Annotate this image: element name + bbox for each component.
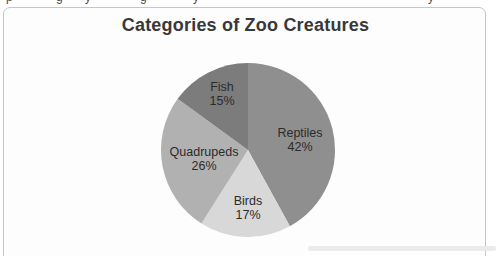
slice-percent: 15% [209,94,234,108]
slice-label-quadrupeds: Quadrupeds 26% [170,145,239,173]
clipped-text-fragment: p [6,0,13,4]
slice-name: Birds [234,194,262,208]
scan-artifact-streak [308,246,496,251]
slice-percent: 42% [277,140,322,154]
slice-name: Reptiles [277,126,322,140]
slice-label-reptiles: Reptiles 42% [277,126,322,154]
slice-label-birds: Birds 17% [234,194,262,222]
clipped-text-fragment: g [56,0,63,4]
clipped-text-fragment: y [85,0,91,4]
slice-name: Quadrupeds [170,145,239,159]
slice-name: Fish [209,80,234,94]
clipped-text-line: p g y g y y [0,0,499,6]
slice-percent: 26% [170,159,239,173]
page: p g y g y y Categories of Zoo Creatures … [0,0,499,256]
slice-label-fish: Fish 15% [209,80,234,108]
slice-percent: 17% [234,208,262,222]
clipped-text-fragment: g [140,0,147,4]
chart-title: Categories of Zoo Creatures [3,15,488,36]
clipped-text-fragment: y [193,0,199,4]
clipped-text-fragment: y [428,0,434,4]
